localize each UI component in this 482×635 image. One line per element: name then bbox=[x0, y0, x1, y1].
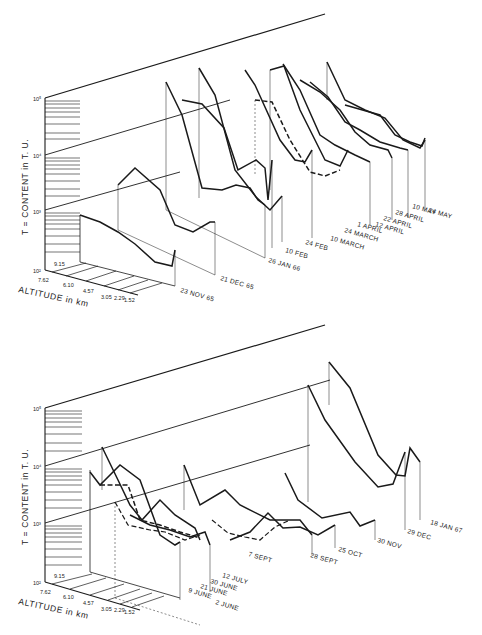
top-y-axis-label: T = CONTENT in T. U. bbox=[20, 139, 30, 235]
tritium-figure: 10⁵ 10⁴ 10³ 10² T = CONTENT in T. U. ALT… bbox=[0, 0, 482, 635]
svg-text:2 JUNE: 2 JUNE bbox=[215, 598, 241, 611]
svg-text:3.05: 3.05 bbox=[101, 606, 112, 612]
svg-text:28 SEPT: 28 SEPT bbox=[310, 551, 339, 565]
ytick-1e2: 10² bbox=[33, 268, 41, 274]
ytick-1e3: 10³ bbox=[33, 209, 41, 215]
top-x-axis-label: ALTITUDE in km bbox=[18, 284, 90, 309]
svg-text:30 NOV: 30 NOV bbox=[377, 536, 403, 550]
bottom-date-labels: 2 JUNE 9 JUNE 21 JUNE 30 JUNE 12 JULY 7 … bbox=[188, 518, 464, 611]
svg-text:7.62: 7.62 bbox=[38, 277, 49, 283]
top-panel bbox=[45, 14, 425, 295]
bottom-y-ticks: 10⁵ 10⁴ 10³ 10² bbox=[33, 406, 42, 586]
svg-text:9.15: 9.15 bbox=[54, 573, 65, 579]
svg-text:4.57: 4.57 bbox=[83, 600, 94, 606]
ytick-1e5: 10⁵ bbox=[33, 96, 41, 102]
svg-text:26 JAN 66: 26 JAN 66 bbox=[268, 256, 302, 272]
svg-text:25 OCT: 25 OCT bbox=[338, 545, 364, 558]
svg-text:24 FEB: 24 FEB bbox=[305, 238, 330, 251]
svg-text:3.05: 3.05 bbox=[101, 294, 112, 300]
top-date-labels: 23 NOV 65 21 DEC 65 26 JAN 66 10 FEB 24 … bbox=[180, 202, 454, 302]
svg-text:21 DEC 65: 21 DEC 65 bbox=[220, 274, 255, 290]
ytick-1e4-b: 10⁴ bbox=[33, 464, 42, 470]
svg-text:24 MAY: 24 MAY bbox=[428, 206, 454, 220]
svg-text:7 SEPT: 7 SEPT bbox=[248, 550, 273, 563]
svg-text:7.62: 7.62 bbox=[40, 589, 51, 595]
ytick-1e2-b: 10² bbox=[33, 580, 41, 586]
svg-text:10 FEB: 10 FEB bbox=[285, 246, 310, 259]
svg-text:9.15: 9.15 bbox=[54, 261, 65, 267]
ytick-1e4: 10⁴ bbox=[33, 153, 42, 159]
top-y-ticks: 10⁵ 10⁴ 10³ 10² bbox=[33, 96, 42, 274]
svg-text:1.52: 1.52 bbox=[124, 609, 135, 615]
bottom-x-axis-label: ALTITUDE in km bbox=[18, 596, 90, 621]
ytick-1e3-b: 10³ bbox=[33, 521, 41, 527]
svg-text:6.10: 6.10 bbox=[63, 282, 74, 288]
svg-text:6.10: 6.10 bbox=[63, 594, 74, 600]
svg-text:1.52: 1.52 bbox=[124, 297, 135, 303]
svg-text:18 JAN 67: 18 JAN 67 bbox=[430, 518, 464, 534]
svg-text:23 NOV 65: 23 NOV 65 bbox=[180, 286, 216, 302]
ytick-1e5-b: 10⁵ bbox=[33, 406, 41, 412]
svg-text:4.57: 4.57 bbox=[83, 288, 94, 294]
svg-text:29 DEC: 29 DEC bbox=[407, 527, 433, 541]
bottom-y-axis-label: T = CONTENT in T. U. bbox=[20, 449, 30, 545]
